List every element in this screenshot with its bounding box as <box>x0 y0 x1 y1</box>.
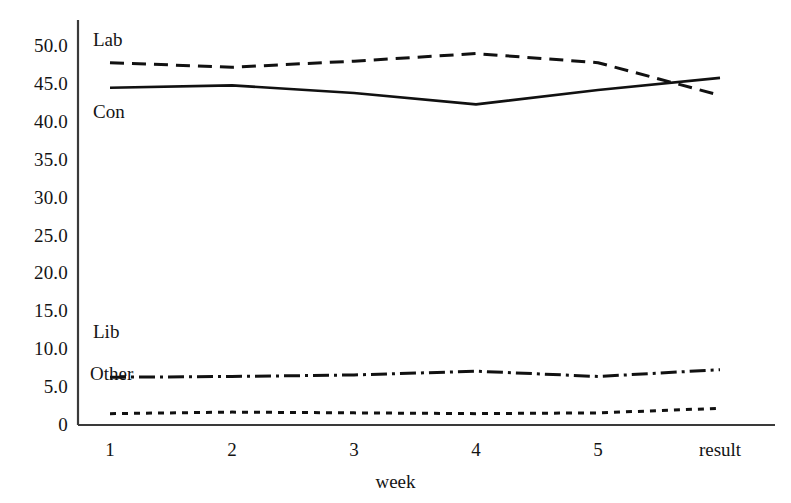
series-label-lib: Lib <box>93 322 119 341</box>
x-axis-tick-label: result <box>660 440 780 459</box>
data-series-layer <box>110 54 720 414</box>
series-label-other: Other <box>90 364 133 383</box>
series-line-other <box>110 408 720 413</box>
series-label-lab: Lab <box>93 30 123 49</box>
x-axis-title: week <box>0 472 791 491</box>
plot-area <box>0 0 791 503</box>
line-chart: 05.010.015.020.025.030.035.040.045.050.0… <box>0 0 791 503</box>
series-line-lab <box>110 54 720 96</box>
series-label-con: Con <box>93 102 125 121</box>
x-axis-tick-label: 5 <box>538 440 658 459</box>
x-axis-tick-label: 3 <box>294 440 414 459</box>
x-axis-tick-label: 4 <box>416 440 536 459</box>
series-line-lib <box>110 370 720 378</box>
series-line-con <box>110 78 720 105</box>
x-axis-tick-label: 2 <box>172 440 292 459</box>
x-axis-tick-label: 1 <box>50 440 170 459</box>
